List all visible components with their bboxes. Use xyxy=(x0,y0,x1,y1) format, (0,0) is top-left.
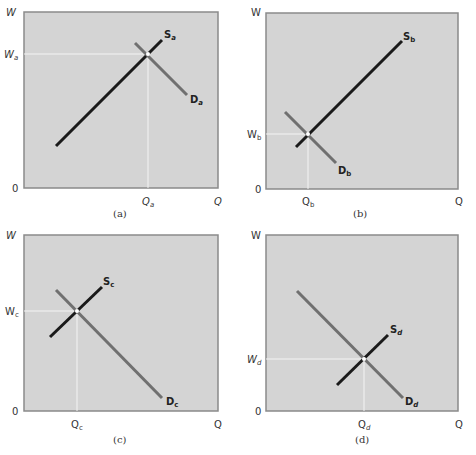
wage-label-d: Wd xyxy=(247,354,262,367)
plot-area-b xyxy=(266,13,458,189)
panel-c: W Wc 0 Qc Q Sc Dc (c) xyxy=(5,230,222,445)
caption-c: (c) xyxy=(113,434,127,445)
y-axis-label-c: W xyxy=(6,230,17,241)
wage-label-b: Wb xyxy=(247,129,262,142)
panel-d: W Wd 0 Qd Q Sd Dd (d) xyxy=(247,230,463,445)
panel-a: W Wa 0 Qa Q Sa Da (a) xyxy=(4,7,222,219)
origin-label-c: 0 xyxy=(12,406,18,417)
qty-label-c: Qc xyxy=(71,419,83,432)
x-axis-label-c: Q xyxy=(214,419,222,430)
x-axis-label-b: Q xyxy=(455,196,463,207)
origin-label-a: 0 xyxy=(12,183,18,194)
equilibrium-point-c xyxy=(75,309,79,313)
plot-area-a xyxy=(24,12,218,188)
origin-label-b: 0 xyxy=(255,184,261,195)
plot-area-d xyxy=(266,235,458,411)
wage-label-c: Wc xyxy=(5,306,19,319)
caption-b: (b) xyxy=(353,208,367,219)
panel-b: W Wb 0 Qb Q Sb Db (b) xyxy=(247,7,463,219)
wage-label-a: Wa xyxy=(4,49,18,62)
qty-label-a: Qa xyxy=(142,196,154,209)
origin-label-d: 0 xyxy=(255,406,261,417)
y-axis-label-a: W xyxy=(6,7,17,18)
figure-four-labor-markets: W Wa 0 Qa Q Sa Da (a) W Wb 0 Qb Q Sb Db … xyxy=(0,0,476,455)
qty-label-d: Qd xyxy=(358,419,371,432)
equilibrium-point-b xyxy=(306,132,310,136)
caption-a: (a) xyxy=(113,208,127,219)
plot-area-c xyxy=(24,235,218,411)
x-axis-label-a: Q xyxy=(214,196,222,207)
y-axis-label-d: W xyxy=(251,230,261,241)
equilibrium-point-d xyxy=(362,357,366,361)
equilibrium-point-a xyxy=(146,52,150,56)
x-axis-label-d: Q xyxy=(455,419,463,430)
qty-label-b: Qb xyxy=(302,196,315,209)
caption-d: (d) xyxy=(355,434,369,445)
y-axis-label-b: W xyxy=(251,7,261,18)
